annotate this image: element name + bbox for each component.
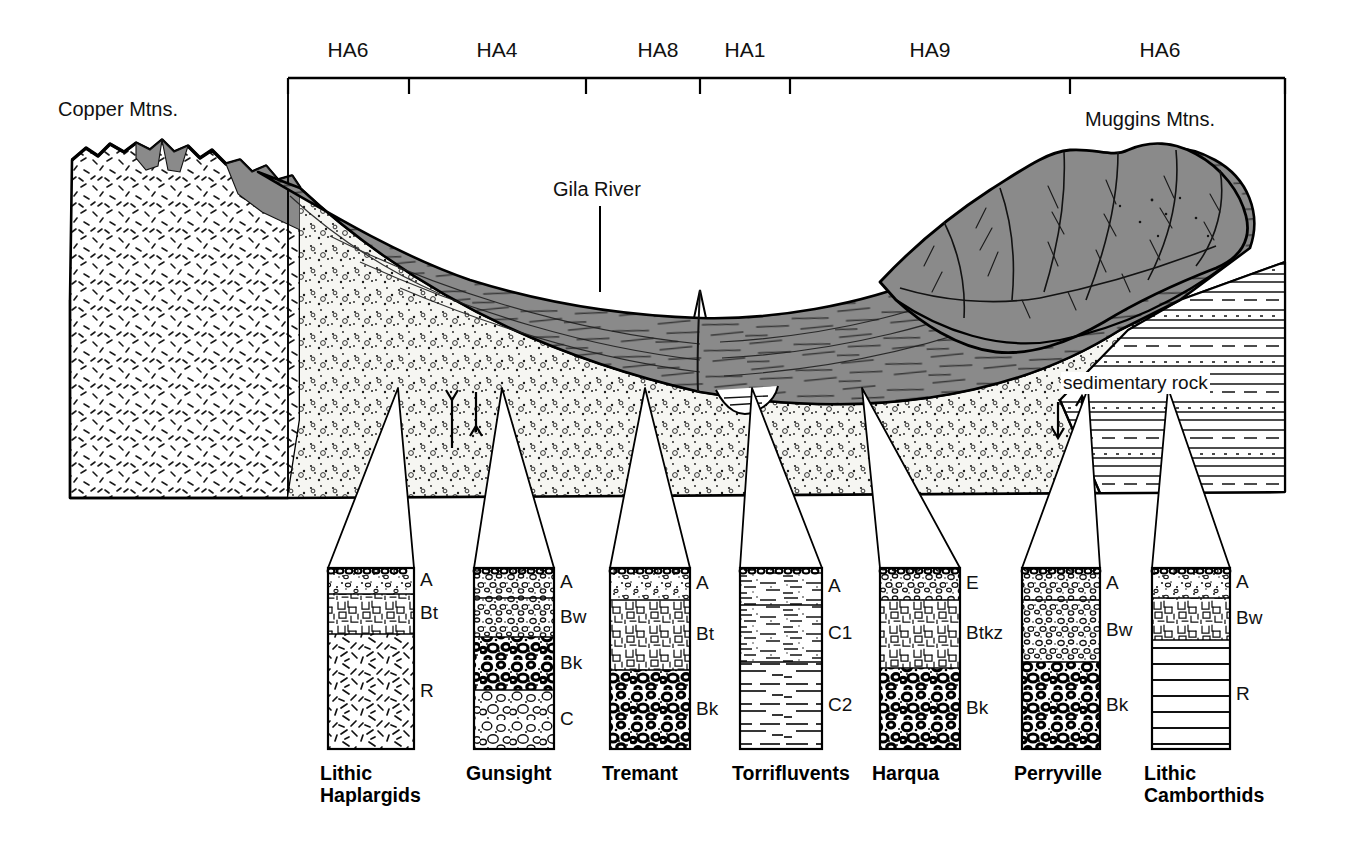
horizon-label: Btkz <box>966 622 1003 644</box>
scale-segment-label: HA6 <box>1120 38 1200 62</box>
horizon-label: C <box>560 708 574 730</box>
profile-caption: Lithic Haplargids <box>320 762 421 807</box>
soil-horizon <box>328 594 414 634</box>
soil-profile-column <box>610 568 690 749</box>
scale-segment-label: HA4 <box>457 38 537 62</box>
horizon-label: Bt <box>696 623 714 645</box>
label-muggins-mountains: Muggins Mtns. <box>1085 108 1215 131</box>
soil-horizon <box>328 634 414 749</box>
label-gila-river: Gila River <box>553 178 641 201</box>
horizon-label: Bk <box>560 652 582 674</box>
horizon-label: Bt <box>420 602 438 624</box>
scale-segment-label: HA6 <box>308 38 388 62</box>
soil-profile-column <box>880 568 960 749</box>
soil-profile-column <box>1152 568 1231 749</box>
soil-horizon <box>610 600 690 670</box>
profile-caption: Tremant <box>602 762 678 784</box>
profile-caption: Gunsight <box>466 762 552 784</box>
profile-caption: Lithic Camborthids <box>1144 762 1264 807</box>
soil-horizon <box>880 600 960 668</box>
scale-segment-label: HA9 <box>890 38 970 62</box>
soil-profile-column <box>740 568 822 749</box>
soil-horizon <box>1152 568 1230 598</box>
soil-horizon <box>1022 662 1100 749</box>
horizon-label: C2 <box>828 694 852 716</box>
copper-mountains-block <box>70 78 300 498</box>
soil-horizon <box>1152 598 1230 640</box>
soil-horizon <box>474 598 554 637</box>
horizon-label: R <box>420 680 434 702</box>
soil-profile-columns <box>328 568 1231 749</box>
soil-horizon <box>474 637 554 690</box>
horizon-label: A <box>560 571 573 593</box>
horizon-label: R <box>1236 683 1250 705</box>
soil-horizon <box>740 605 822 662</box>
soil-profile-column <box>328 568 414 749</box>
profile-caption: Perryville <box>1014 762 1102 784</box>
soil-horizon <box>474 690 554 749</box>
horizon-label: A <box>696 572 709 594</box>
horizon-label: A <box>1236 571 1249 593</box>
soil-horizon <box>740 662 822 749</box>
label-sedimentary-rock: sedimentary rock <box>1061 372 1210 394</box>
horizon-label: Bk <box>966 697 988 719</box>
soil-profile-column <box>474 568 554 749</box>
profile-caption: Torrifluvents <box>732 762 850 784</box>
horizon-label: Bw <box>1106 619 1132 641</box>
horizon-label: A <box>420 569 433 591</box>
soil-horizon <box>880 668 960 749</box>
soil-profile-column <box>1022 568 1101 749</box>
horizon-label: Bw <box>1236 607 1262 629</box>
horizon-label: A <box>1106 572 1119 594</box>
horizon-label: Bk <box>696 698 718 720</box>
scale-segment-label: HA8 <box>618 38 698 62</box>
horizon-label: A <box>828 575 841 597</box>
label-copper-mountains: Copper Mtns. <box>58 98 178 121</box>
scale-bar <box>288 78 1285 94</box>
horizon-label: Bk <box>1106 694 1128 716</box>
scale-segment-label: HA1 <box>705 38 785 62</box>
soil-horizon <box>1152 640 1230 749</box>
horizon-label: Bw <box>560 606 586 628</box>
profile-caption: Harqua <box>872 762 939 784</box>
figure-canvas: HA6HA4HA8HA1HA9HA6 Copper Mtns. Muggins … <box>0 0 1349 865</box>
soil-horizon <box>1022 600 1100 662</box>
horizon-label: E <box>966 572 979 594</box>
horizon-label: C1 <box>828 622 852 644</box>
soil-horizon <box>610 670 690 749</box>
